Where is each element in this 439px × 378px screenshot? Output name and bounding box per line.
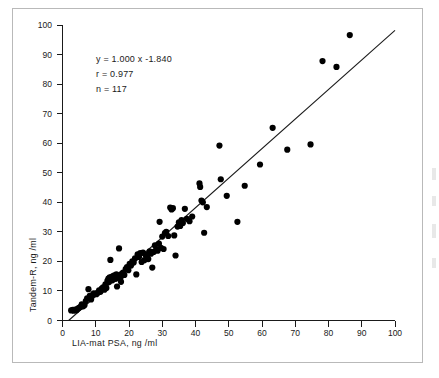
scatter-point xyxy=(189,213,195,219)
y-tick-label: 100 xyxy=(38,20,52,30)
y-tick-label: 40 xyxy=(43,197,53,207)
scatter-point xyxy=(121,272,127,278)
y-tick-label: 60 xyxy=(43,138,53,148)
scatter-point xyxy=(242,183,248,189)
x-tick-label: 50 xyxy=(224,328,234,338)
x-tick-label: 0 xyxy=(60,328,65,338)
scatter-point xyxy=(107,257,113,263)
scatter-point xyxy=(200,199,206,205)
annotation-correlation: r = 0.977 xyxy=(96,69,134,79)
scatter-point xyxy=(270,125,276,131)
scatter-point xyxy=(171,232,177,238)
y-tick-label: 10 xyxy=(43,286,53,296)
scan-edge-artifact-mid xyxy=(432,196,436,206)
scatter-point xyxy=(116,245,122,251)
x-tick-label: 80 xyxy=(324,328,334,338)
y-tick-label: 20 xyxy=(43,256,53,266)
scatter-point xyxy=(257,161,263,167)
y-tick-label: 30 xyxy=(43,227,53,237)
y-tick-label: 50 xyxy=(43,168,53,178)
scatter-point xyxy=(149,265,155,271)
x-tick-label: 30 xyxy=(158,328,168,338)
scatter-chart: 0102030405060708090100 01020304050607080… xyxy=(0,0,439,378)
scatter-point xyxy=(114,283,120,289)
scan-edge-artifact-bottom xyxy=(432,258,436,268)
scatter-point xyxy=(118,279,124,285)
x-axis-title: LIA-mat PSA, ng /ml xyxy=(72,338,157,348)
scatter-point xyxy=(234,219,240,225)
annotation-equation: y = 1.000 x -1.840 xyxy=(96,54,172,64)
scatter-point xyxy=(156,219,162,225)
scan-edge-artifact-low xyxy=(432,224,436,238)
scatter-point xyxy=(347,32,353,38)
scatter-point xyxy=(172,252,178,258)
scatter-point xyxy=(224,193,230,199)
figure-root: 0102030405060708090100 01020304050607080… xyxy=(0,0,439,378)
x-tick-label: 100 xyxy=(388,328,402,338)
scatter-point xyxy=(197,184,203,190)
x-tick-label: 70 xyxy=(291,328,301,338)
scatter-point xyxy=(182,206,188,212)
scatter-point xyxy=(145,256,151,262)
scatter-point xyxy=(216,142,222,148)
scan-edge-artifact-top xyxy=(432,168,436,180)
scatter-point xyxy=(85,286,91,292)
x-tick-label: 40 xyxy=(191,328,201,338)
scatter-point xyxy=(218,176,224,182)
x-tick-label: 90 xyxy=(357,328,367,338)
scatter-point xyxy=(170,205,176,211)
x-tick-label: 10 xyxy=(91,328,101,338)
scatter-point xyxy=(319,58,325,64)
scatter-point xyxy=(133,271,139,277)
x-tick-label: 60 xyxy=(257,328,267,338)
y-axis-ticks: 0102030405060708090100 xyxy=(38,20,63,326)
scatter-point xyxy=(201,230,207,236)
y-tick-label: 90 xyxy=(43,50,53,60)
y-tick-label: 70 xyxy=(43,109,53,119)
scatter-point xyxy=(165,233,171,239)
y-tick-label: 0 xyxy=(47,316,52,326)
x-axis-ticks: 0102030405060708090100 xyxy=(60,321,402,339)
scatter-point xyxy=(204,204,210,210)
scatter-point xyxy=(333,64,339,70)
scatter-point xyxy=(103,285,109,291)
y-axis-title: Tandem-R, ng /ml xyxy=(28,238,38,312)
scatter-point xyxy=(307,141,313,147)
annotation-sample-size: n = 117 xyxy=(96,84,127,94)
annotation-block: y = 1.000 x -1.840 r = 0.977 n = 117 xyxy=(96,54,172,94)
scatter-point xyxy=(284,147,290,153)
y-tick-label: 80 xyxy=(43,79,53,89)
scatter-point xyxy=(160,246,166,252)
x-tick-label: 20 xyxy=(124,328,134,338)
